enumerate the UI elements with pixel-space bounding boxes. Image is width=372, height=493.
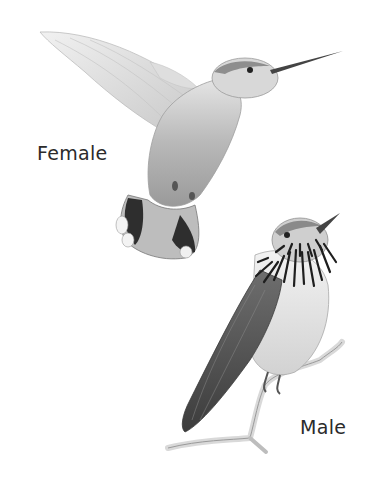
male-beak [316,213,340,234]
male-label: Male [300,416,346,438]
female-beak [270,51,343,74]
male-eye [284,232,290,238]
female-label: Female [37,142,108,164]
female-eye [247,67,253,73]
